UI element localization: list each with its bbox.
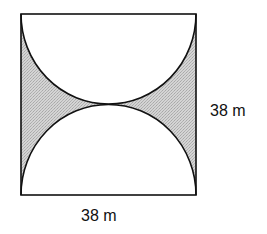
figure: 38 m 38 m	[0, 0, 267, 234]
bottom-side-label: 38 m	[81, 207, 117, 224]
right-side-label: 38 m	[210, 102, 246, 119]
